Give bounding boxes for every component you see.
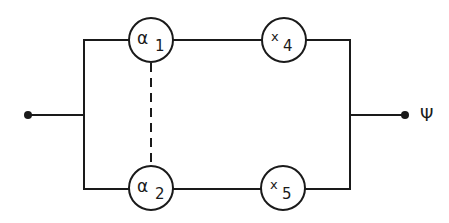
node-alpha-1: α 1 (129, 18, 173, 62)
node-x-4-subscript: 4 (283, 37, 293, 55)
node-alpha-2-subscript: 2 (155, 185, 165, 203)
node-alpha-1-symbol: α (137, 28, 148, 48)
output-terminal-dot (401, 111, 409, 119)
node-x-5-subscript: 5 (282, 185, 292, 203)
node-alpha-2-symbol: α (137, 176, 148, 196)
output-label: Ψ (420, 105, 433, 125)
node-x-5-symbol: x (270, 177, 278, 192)
node-alpha-2: α 2 (129, 166, 173, 210)
node-alpha-1-subscript: 1 (155, 37, 165, 55)
node-x-5: x 5 (261, 166, 305, 210)
node-x-4-symbol: x (271, 29, 279, 44)
node-x-4: x 4 (262, 18, 306, 62)
network-diagram: Ψ α 1 x 4 α 2 x 5 (0, 0, 449, 223)
